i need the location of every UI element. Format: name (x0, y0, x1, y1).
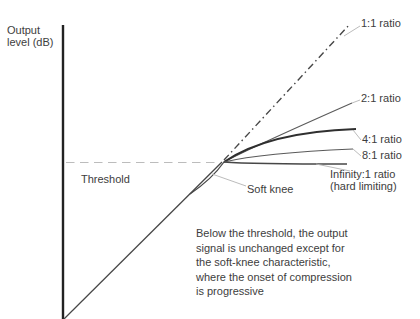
note-line-2: signal is unchanged except for (196, 241, 352, 256)
curve-1-1-ratio (224, 24, 350, 160)
ratio-label-1-1: 1:1 ratio (361, 17, 401, 30)
soft-knee-note: Below the threshold, the output signal i… (196, 226, 352, 299)
leader-4-1-ratio (353, 130, 361, 140)
note-line-1: Below the threshold, the output (196, 226, 352, 241)
leader-2-1-ratio (352, 100, 360, 103)
threshold-label: Threshold (81, 173, 130, 186)
note-line-4: where the onset of compression (196, 270, 352, 285)
y-axis-label-line2: level (dB) (7, 37, 53, 49)
ratio-label-2-1: 2:1 ratio (361, 92, 401, 105)
y-axis-label: Output level (dB) (7, 25, 53, 48)
ratio-label-4-1: 4:1 ratio (362, 133, 402, 146)
compression-ratio-diagram: Output level (dB) Threshold Soft knee 1:… (0, 0, 420, 319)
y-axis-label-line1: Output (7, 25, 53, 37)
leader-8-1-ratio (353, 149, 361, 156)
ratio-label-8-1: 8:1 ratio (362, 149, 402, 162)
leader-soft-knee (212, 174, 246, 186)
soft-knee-label: Soft knee (247, 183, 293, 196)
leader-1-1-ratio (344, 26, 360, 36)
curve-infinity-ratio (224, 162, 347, 164)
note-line-5: is progressive (196, 284, 352, 299)
note-line-3: the soft-knee characteristic, (196, 255, 352, 270)
curve-4-1-ratio (224, 129, 356, 162)
ratio-label-infinity-line1: Infinity:1 ratio (330, 169, 397, 181)
ratio-label-infinity-line2: (hard limiting) (330, 181, 397, 193)
ratio-label-infinity: Infinity:1 ratio (hard limiting) (330, 169, 397, 192)
